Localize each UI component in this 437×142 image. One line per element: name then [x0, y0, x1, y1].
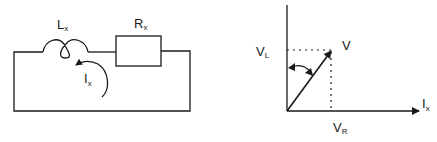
- resultant-voltage-arrow: [287, 51, 331, 111]
- inductor-coil-icon: [43, 40, 88, 58]
- current-direction-arrow-icon: [76, 61, 108, 97]
- ix-axis-label: Ix: [422, 96, 430, 113]
- angle-arrowhead-right: [305, 68, 313, 76]
- resistor-icon: [116, 36, 161, 66]
- circuit-wire: [14, 51, 190, 111]
- inductor-label: Lx: [57, 17, 68, 33]
- current-label: Ix: [84, 71, 92, 88]
- rl-circuit-phasor-diagram: Lx Rx Ix VL V Ix VR: [0, 0, 437, 142]
- resistor-label: Rx: [134, 16, 147, 32]
- phasor-diagram: [287, 5, 419, 111]
- v-label: V: [342, 38, 351, 53]
- vr-label: VR: [333, 120, 348, 136]
- circuit: [14, 36, 190, 111]
- vl-label: VL: [256, 44, 270, 60]
- angle-arrowhead-left: [288, 63, 295, 71]
